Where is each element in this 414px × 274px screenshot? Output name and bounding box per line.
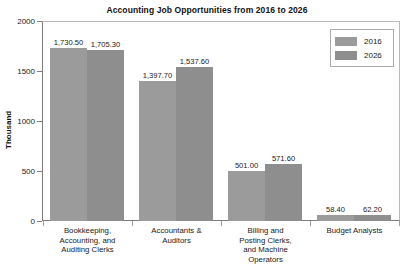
bar-2016[interactable]	[317, 215, 354, 221]
x-category-label-line: Posting Clerks,	[221, 236, 310, 246]
y-axis-title: Thousand	[2, 90, 14, 170]
y-tick-mark	[37, 171, 42, 172]
bar-2016[interactable]	[228, 171, 265, 221]
y-tick-mark	[37, 221, 42, 222]
bar-value-label: 1,397.70	[136, 71, 180, 80]
bar-group	[139, 21, 213, 221]
x-category-label-line: Operators	[221, 255, 310, 265]
x-category-label-line: Bookkeeping,	[43, 226, 132, 236]
x-category-label-line: Auditing Clerks	[43, 245, 132, 255]
x-category-label-line: Auditors	[132, 236, 221, 246]
x-category-label: Bookkeeping,Accounting, andAuditing Cler…	[43, 226, 132, 255]
bar-value-label: 1,705.30	[84, 40, 128, 49]
legend-swatch	[335, 37, 357, 46]
y-tick-label: 2000	[1, 17, 35, 26]
y-tick-mark	[37, 121, 42, 122]
y-tick-mark	[37, 71, 42, 72]
y-tick-mark	[37, 21, 42, 22]
x-category-label: Accountants &Auditors	[132, 226, 221, 245]
legend-label: 2026	[364, 51, 382, 60]
legend-swatch	[335, 51, 357, 60]
legend-label: 2016	[364, 37, 382, 46]
x-category-label-line: Billing and	[221, 226, 310, 236]
y-tick-label: 0	[1, 217, 35, 226]
legend-item[interactable]: 2026	[335, 48, 389, 62]
x-category-label-line: Accountants &	[132, 226, 221, 236]
bar-2016[interactable]	[139, 81, 176, 221]
bar-chart: Accounting Job Opportunities from 2016 t…	[0, 0, 414, 274]
y-tick-label: 1500	[1, 67, 35, 76]
x-category-label-line: and Machine	[221, 245, 310, 255]
bar-value-label: 1,537.60	[173, 57, 217, 66]
bar-value-label: 62.20	[351, 205, 395, 214]
legend-item[interactable]: 2016	[335, 34, 389, 48]
bar-2026[interactable]	[176, 67, 213, 221]
chart-legend: 20162026	[330, 29, 394, 67]
chart-title: Accounting Job Opportunities from 2016 t…	[0, 5, 414, 15]
bar-group	[228, 21, 302, 221]
bar-2026[interactable]	[87, 50, 124, 221]
x-category-label: Billing andPosting Clerks,and MachineOpe…	[221, 226, 310, 264]
bar-value-label: 571.60	[262, 154, 306, 163]
x-tick-mark	[399, 221, 400, 226]
bar-2016[interactable]	[50, 48, 87, 221]
x-category-label-line: Budget Analysts	[310, 226, 399, 236]
x-category-label-line: Accounting, and	[43, 236, 132, 246]
y-tick-label: 1000	[1, 117, 35, 126]
bar-2026[interactable]	[354, 215, 391, 221]
x-category-label: Budget Analysts	[310, 226, 399, 236]
y-tick-label: 500	[1, 167, 35, 176]
bar-group	[50, 21, 124, 221]
bar-2026[interactable]	[265, 164, 302, 221]
